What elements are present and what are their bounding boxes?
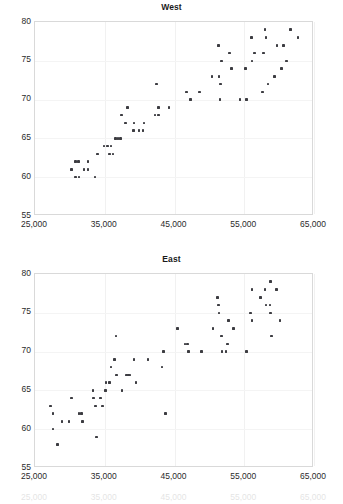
data-point [68,420,71,423]
data-point [83,168,86,171]
x-axis-tick-label: 45,000 [151,471,197,481]
gridline-vertical [314,274,315,466]
gridline-horizontal [35,429,312,430]
data-point [108,381,111,384]
data-point [269,280,272,283]
gridline-horizontal [35,390,312,391]
data-point [218,75,221,78]
data-point [220,335,223,338]
data-point [115,374,118,377]
chart-west: West 807570656055 25,00035,00045,00055,0… [0,0,343,252]
data-point [226,343,229,346]
partial-x-axis-tick-label: 45,000 [151,492,197,502]
data-point [267,83,270,86]
data-point [264,28,267,31]
data-point [239,98,242,101]
data-point [80,412,83,415]
gridline-vertical [105,22,106,214]
data-point [217,44,220,47]
data-point [219,98,222,101]
y-axis-tick-label: 75 [1,307,31,316]
data-point [269,304,272,307]
data-point [155,83,158,86]
x-axis-tick-label: 55,000 [220,219,266,229]
data-point [297,36,300,39]
data-point [94,405,97,408]
data-point [265,304,268,307]
y-axis-east: 807570656055 [0,252,31,504]
partial-x-axis-tick-label: 55,000 [220,492,266,502]
data-point [133,122,136,125]
y-axis-tick-label: 65 [1,133,31,142]
gridline-horizontal [35,61,312,62]
data-point [168,106,171,109]
data-point [49,405,52,408]
data-point [147,358,150,361]
data-point [113,358,116,361]
x-axis-tick-label: 55,000 [220,471,266,481]
gridline-vertical [175,22,176,214]
gridline-horizontal [35,100,312,101]
data-point [289,28,292,31]
data-point [232,327,235,330]
y-axis-tick-label: 80 [1,269,31,278]
y-axis-tick-label: 80 [1,17,31,26]
data-point [244,67,247,70]
data-point [245,350,248,353]
scatter-plot-page: West 807570656055 25,00035,00045,00055,0… [0,0,343,504]
data-point [87,160,90,163]
data-point [77,160,80,163]
data-point [185,91,188,94]
gridline-vertical [244,274,245,466]
data-point [251,319,254,322]
data-point [96,153,99,156]
data-point [135,381,138,384]
data-point [187,350,190,353]
data-point [161,366,164,369]
data-point [275,288,278,291]
y-axis-tick-label: 70 [1,94,31,103]
x-axis-tick-label: 25,000 [11,219,57,229]
partial-x-axis-tick-label: 65,000 [290,492,336,502]
data-point [164,412,167,415]
y-axis-tick-label: 60 [1,424,31,433]
data-point [132,129,135,132]
data-point [157,114,160,117]
data-point [186,343,189,346]
data-point [61,420,64,423]
data-point [216,296,219,299]
data-point [70,397,73,400]
data-point [221,350,224,353]
y-axis-tick-label: 65 [1,385,31,394]
data-point [101,405,104,408]
partial-x-axis-tick-label: 25,000 [11,492,57,502]
gridline-vertical [105,274,106,466]
y-axis-tick-label: 60 [1,172,31,181]
data-point [110,145,113,148]
x-axis-tick-label: 25,000 [11,471,57,481]
partial-x-axis-tick-label: 35,000 [81,492,127,502]
data-point [245,98,248,101]
data-point [92,397,95,400]
data-point [126,106,129,109]
data-point [249,312,252,315]
data-point [56,443,59,446]
data-point [142,129,145,132]
data-point [143,122,146,125]
gridline-vertical [244,22,245,214]
data-point [220,60,223,63]
data-point [276,44,279,47]
data-point [157,106,160,109]
data-point [81,420,84,423]
data-point [282,44,285,47]
data-point [87,168,90,171]
data-point [280,67,283,70]
data-point [162,350,165,353]
data-point [250,36,253,39]
gridline-horizontal [35,352,312,353]
partial-chart-ticks-below: 25,00035,00045,00055,00065,000 [0,492,343,504]
x-axis-tick-label: 65,000 [290,471,336,481]
data-point [219,83,222,86]
data-point [211,75,214,78]
data-point [228,52,231,55]
